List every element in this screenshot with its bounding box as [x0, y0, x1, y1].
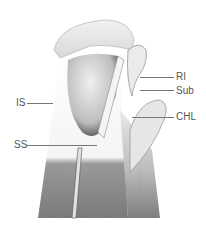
leader-line-ss [27, 145, 97, 146]
label-is: IS [16, 98, 25, 108]
label-sub: Sub [176, 86, 194, 96]
leader-line-is [27, 103, 53, 104]
label-ss: SS [14, 140, 27, 150]
label-chl: CHL [176, 112, 196, 122]
leader-line-sub [140, 90, 174, 91]
leader-line-chl [132, 117, 174, 118]
label-ri: RI [176, 72, 186, 82]
leader-line-ri [140, 77, 174, 78]
